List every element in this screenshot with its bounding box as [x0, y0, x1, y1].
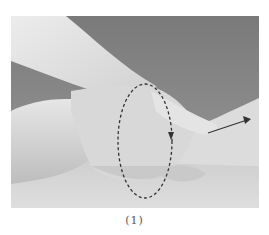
- hands-photo: [11, 16, 259, 208]
- figure-caption: (1): [0, 214, 269, 227]
